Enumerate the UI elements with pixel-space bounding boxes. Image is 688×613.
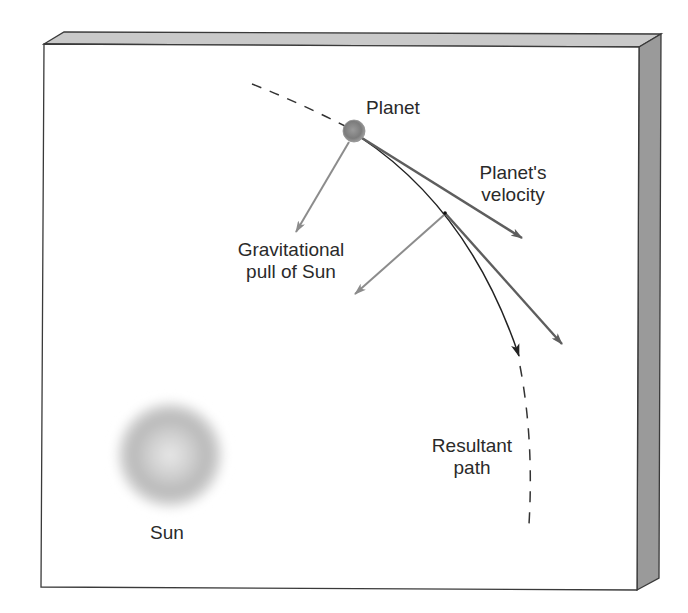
gravity-label-line1: Gravitational <box>226 239 356 261</box>
panel-side-bevel <box>637 34 661 590</box>
velocity-label-line2: velocity <box>470 184 556 206</box>
resultant-path-label: Resultant path <box>422 435 522 479</box>
junction-point <box>443 211 447 215</box>
panel-face <box>41 44 639 590</box>
planet <box>343 120 365 142</box>
gravity-label-line2: pull of Sun <box>226 261 356 283</box>
orbit-diagram <box>0 0 688 613</box>
sun-label: Sun <box>150 522 184 544</box>
velocity-label-line1: Planet's <box>470 162 556 184</box>
planet-label: Planet <box>366 97 420 119</box>
panel <box>41 32 661 590</box>
sun-glow <box>112 397 228 513</box>
velocity-label: Planet's velocity <box>470 162 556 206</box>
resultant-path-label-line2: path <box>422 457 522 479</box>
sun <box>112 397 228 513</box>
resultant-path-label-line1: Resultant <box>422 435 522 457</box>
gravity-label: Gravitational pull of Sun <box>226 239 356 283</box>
